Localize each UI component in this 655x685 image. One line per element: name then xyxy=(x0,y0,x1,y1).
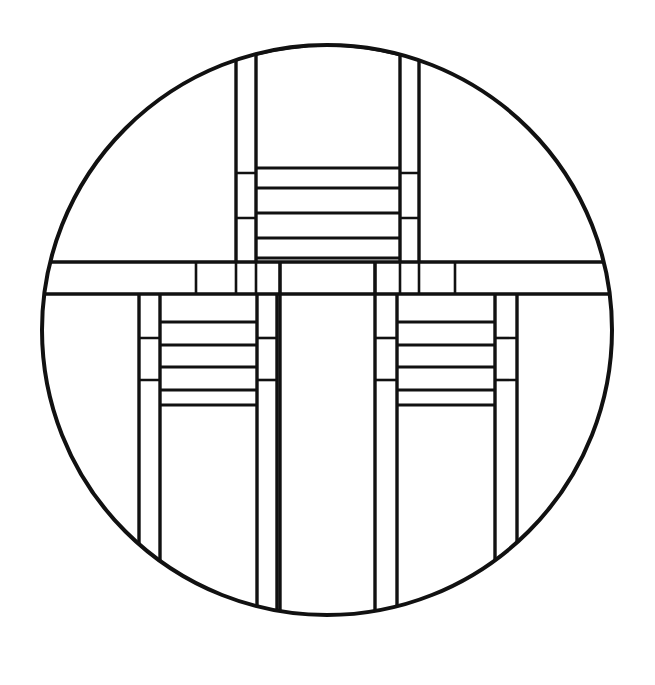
artwork-svg xyxy=(0,0,655,685)
page-background xyxy=(0,0,655,685)
artwork-canvas xyxy=(0,0,655,685)
